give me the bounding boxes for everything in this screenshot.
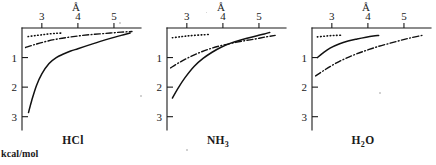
figure-root: Å 345123 HCl Å 345123 NH3 Å 345123 H2O k… (0, 0, 436, 165)
y-tick-label: 3 (157, 111, 163, 123)
y-tick-label: 2 (302, 81, 308, 93)
curve-dash-dot (171, 35, 276, 68)
y-tick-label: 3 (12, 111, 18, 123)
y-tick-label: 3 (302, 111, 308, 123)
scan-speck (119, 22, 121, 24)
curve-solid (28, 33, 130, 113)
curve-dotted (317, 35, 342, 37)
x-tick-label: 4 (220, 10, 226, 22)
x-tick-label: 4 (365, 10, 371, 22)
scan-speck (379, 92, 381, 94)
curve-dotted (172, 35, 209, 38)
y-tick-label: 1 (12, 52, 18, 64)
x-tick-label: 5 (256, 10, 262, 22)
y-tick-label: 1 (302, 52, 308, 64)
curve-dash-dot (316, 35, 422, 76)
y-tick-label: 2 (12, 81, 18, 93)
scan-speck (186, 149, 188, 151)
curve-solid (172, 32, 269, 98)
x-tick-label: 3 (329, 10, 335, 22)
x-tick-label: 3 (184, 10, 190, 22)
y-tick-label: 1 (157, 52, 163, 64)
panel-h2o: Å 345123 H2O (290, 0, 436, 165)
curve-dash-dot (26, 32, 132, 48)
scan-speck (140, 95, 142, 97)
panel-nh3: Å 345123 NH3 (145, 0, 291, 165)
curve-solid (317, 35, 378, 57)
y-axis-unit-label: kcal/mol (1, 148, 38, 159)
molecule-label-h2o: H2O (290, 134, 436, 149)
x-tick-label: 3 (39, 10, 45, 22)
molecule-label-hcl: HCl (0, 134, 146, 146)
x-tick-label: 5 (111, 10, 117, 22)
panel-hcl: Å 345123 HCl (0, 0, 146, 165)
x-tick-label: 4 (75, 10, 81, 22)
molecule-label-nh3: NH3 (145, 134, 291, 149)
y-tick-label: 2 (157, 81, 163, 93)
curve-dotted (28, 33, 62, 37)
x-tick-label: 5 (401, 10, 407, 22)
